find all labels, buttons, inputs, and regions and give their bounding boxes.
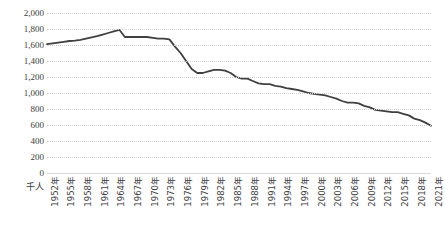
x-axis-tick-label: 1958年: [84, 176, 93, 207]
plot-area: [47, 13, 431, 173]
x-axis-tick-label: 1970年: [151, 176, 160, 207]
x-axis-tick-label: 2003年: [334, 176, 343, 207]
gridline: [47, 61, 431, 62]
gridline: [47, 125, 431, 126]
x-axis-tick-label: 1988年: [251, 176, 260, 207]
gridline: [47, 109, 431, 110]
y-axis-tick-label: 1,200: [24, 73, 44, 82]
x-axis-tick-label: 1991年: [268, 176, 277, 207]
y-axis-tick-label: 1,800: [24, 25, 44, 34]
birth-statistics-line-chart: 2,0001,8001,6001,4001,2001,0008006004002…: [0, 0, 445, 238]
x-axis-tick-label: 2000年: [318, 176, 327, 207]
x-axis: 1952年1955年1958年1961年1964年1967年1970年1973年…: [47, 176, 431, 234]
x-axis-tick-label: 1955年: [67, 176, 76, 207]
x-axis-tick-label: 1952年: [51, 176, 60, 207]
y-axis-tick-label: 600: [31, 121, 45, 130]
x-axis-tick-label: 1976年: [184, 176, 193, 207]
x-axis-tick-label: 2018年: [418, 176, 427, 207]
y-axis-tick-label: 800: [31, 105, 45, 114]
x-axis-tick-label: 1979年: [201, 176, 210, 207]
gridline: [47, 141, 431, 142]
y-axis-tick-label: 0: [40, 169, 45, 178]
x-axis-tick-label: 1964年: [117, 176, 126, 207]
y-axis-tick-label: 200: [31, 153, 45, 162]
x-axis-tick-label: 2015年: [401, 176, 410, 207]
gridline: [47, 29, 431, 30]
y-axis-tick-label: 1,400: [24, 57, 44, 66]
y-axis-tick-label: 1,600: [24, 41, 44, 50]
y-axis-tick-label: 400: [31, 137, 45, 146]
x-axis-tick-label: 1961年: [101, 176, 110, 207]
y-axis-unit-label: 千人: [0, 183, 44, 192]
gridline: [47, 157, 431, 158]
x-axis-tick-label: 1985年: [234, 176, 243, 207]
y-axis-tick-label: 1,000: [24, 89, 44, 98]
gridline: [47, 13, 431, 14]
x-axis-baseline: [47, 173, 431, 174]
x-axis-tick-label: 2021年: [435, 176, 444, 207]
y-axis-tick-label: 2,000: [24, 9, 44, 18]
x-axis-tick-label: 2006年: [351, 176, 360, 207]
gridline: [47, 77, 431, 78]
x-axis-tick-label: 1997年: [301, 176, 310, 207]
x-axis-tick-label: 2012年: [384, 176, 393, 207]
y-axis: 2,0001,8001,6001,4001,2001,0008006004002…: [0, 0, 46, 180]
x-axis-tick-label: 1973年: [167, 176, 176, 207]
gridline: [47, 93, 431, 94]
x-axis-tick-label: 2009年: [368, 176, 377, 207]
x-axis-tick-label: 1994年: [284, 176, 293, 207]
x-axis-tick-label: 1967年: [134, 176, 143, 207]
gridline: [47, 45, 431, 46]
x-axis-tick-label: 1982年: [217, 176, 226, 207]
